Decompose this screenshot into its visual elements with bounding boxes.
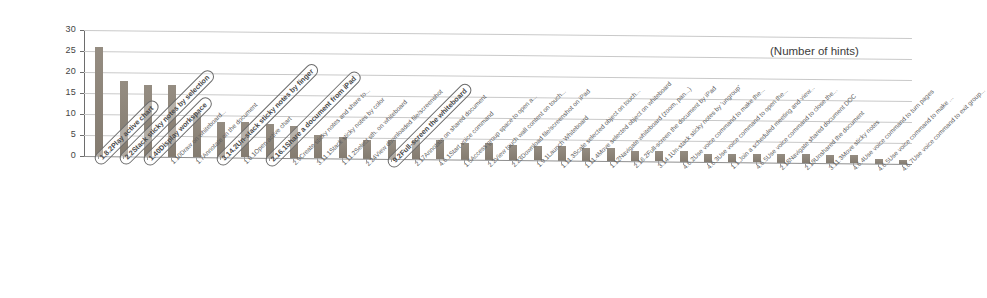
y-axis-tick-label: 30 — [54, 25, 76, 34]
x-axis-tick — [707, 162, 708, 165]
x-axis-tick — [780, 163, 781, 166]
x-axis-tick — [731, 162, 732, 165]
chart-annotation: (Number of hints) — [770, 45, 859, 57]
x-axis-tick — [391, 159, 392, 162]
x-axis-tick — [244, 157, 245, 160]
x-axis-tick — [269, 158, 270, 161]
x-axis-tick — [464, 160, 465, 163]
x-axis-tick — [805, 163, 806, 166]
x-axis-tick — [634, 161, 635, 164]
x-axis-tick — [123, 156, 124, 159]
x-axis-tick — [98, 156, 99, 159]
x-axis-tick — [902, 164, 903, 167]
y-axis-tick-label: 20 — [54, 67, 76, 76]
x-axis-tick — [171, 157, 172, 160]
x-axis-tick — [366, 159, 367, 162]
x-axis-tick — [658, 161, 659, 164]
x-axis-tick — [853, 163, 854, 166]
x-axis-tick — [488, 160, 489, 163]
x-axis-tick — [610, 161, 611, 164]
y-axis-tick-label: 0 — [54, 151, 76, 160]
x-axis-tick — [293, 158, 294, 161]
x-axis-tick — [878, 164, 879, 167]
y-axis-tick-label: 5 — [54, 130, 76, 139]
x-axis-tick — [561, 161, 562, 164]
x-axis-tick — [585, 161, 586, 164]
bar — [95, 47, 103, 156]
x-axis-tick — [829, 163, 830, 166]
x-axis-tick — [196, 157, 197, 160]
x-axis-tick — [512, 160, 513, 163]
y-axis-tick-label: 25 — [54, 46, 76, 55]
y-axis: 051015202530 — [0, 0, 84, 160]
y-axis-tick-label: 10 — [54, 109, 76, 118]
x-axis-tick — [439, 159, 440, 162]
x-axis-tick — [147, 157, 148, 160]
x-axis-tick — [415, 159, 416, 162]
x-axis-tick — [317, 158, 318, 161]
x-axis-tick — [683, 162, 684, 165]
x-axis-tick — [220, 157, 221, 160]
y-axis-tick-label: 15 — [54, 88, 76, 97]
x-axis-tick — [537, 160, 538, 163]
x-axis-tick — [756, 162, 757, 165]
x-axis-tick — [342, 158, 343, 161]
